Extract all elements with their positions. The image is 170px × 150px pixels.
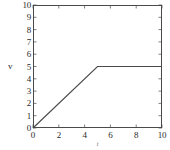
series-line: [33, 67, 162, 129]
y-tick-label: 2: [1, 99, 31, 108]
x-tick-label: 2: [49, 131, 69, 140]
y-tick-label: 9: [1, 13, 31, 22]
y-tick-label: 5: [1, 62, 31, 71]
y-tick-label: 4: [1, 74, 31, 83]
x-tick-label: 6: [100, 131, 120, 140]
y-tick-label: 1: [1, 111, 31, 120]
y-tick-label: 7: [1, 37, 31, 46]
x-tick-label: 4: [75, 131, 95, 140]
chart-screenshot: 012345678910 0246810 v t: [0, 0, 170, 150]
y-tick-label: 3: [1, 87, 31, 96]
y-tick-label: 8: [1, 25, 31, 34]
y-axis-title: v: [8, 62, 13, 71]
plot-canvas: [33, 5, 162, 128]
x-tick-label: 10: [152, 131, 170, 140]
y-axis-tick-labels: 012345678910: [0, 5, 31, 128]
y-tick-label: 10: [1, 1, 31, 10]
y-tick-label: 6: [1, 50, 31, 59]
x-tick-label: 0: [23, 131, 43, 140]
x-tick-label: 8: [126, 131, 146, 140]
data-series: [33, 67, 162, 129]
x-axis-title: t: [33, 141, 162, 147]
